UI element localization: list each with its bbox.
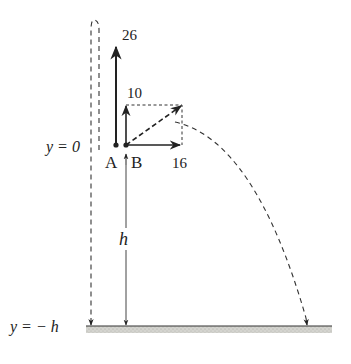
label-16: 16	[172, 155, 188, 171]
label-y-minus-h: y = − h	[8, 318, 59, 336]
vector-b-resultant	[126, 106, 181, 145]
ball-b-trajectory	[175, 122, 306, 318]
label-26: 26	[122, 27, 138, 43]
label-y-zero: y = 0	[44, 138, 80, 156]
ball-a-path	[91, 20, 99, 318]
label-h: h	[119, 229, 128, 249]
projectile-diagram: 26 10 16 A B h y = 0 y = − h	[0, 0, 351, 364]
ground	[86, 326, 332, 333]
label-10: 10	[127, 85, 142, 101]
point-b-dot	[123, 142, 128, 147]
point-a-dot	[113, 142, 118, 147]
ball-b-landing-arrow	[306, 318, 307, 325]
label-a: A	[105, 153, 118, 172]
label-b: B	[131, 153, 142, 172]
